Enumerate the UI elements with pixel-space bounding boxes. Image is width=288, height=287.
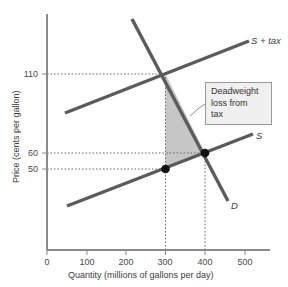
supply-demand-plot [0,0,288,287]
deadweight-loss-callout: Deadweight loss from tax [205,82,272,125]
curve-label-supply: S [256,131,262,141]
x-tick-label-500: 500 [230,257,260,267]
y-axis-title: Price (cents per gallon) [11,90,21,183]
marker-seller-receives [161,165,170,174]
callout-leader-line [190,104,205,116]
x-tick-label-0: 0 [32,257,62,267]
x-tick-label-400: 400 [190,257,220,267]
callout-line-3: tax [211,109,267,121]
y-tick-label-110: 110 [12,69,38,79]
x-tick-label-100: 100 [72,257,102,267]
curve-label-supply-plus-tax: S + tax [251,36,281,46]
x-axis-title: Quantity (millions of gallons per day) [68,270,214,280]
x-tick-label-300: 300 [150,257,180,267]
curve-label-demand: D [231,201,238,211]
x-tick-label-200: 200 [111,257,141,267]
callout-line-1: Deadweight [211,86,267,98]
callout-line-2: loss from [211,98,267,110]
marker-no-tax-equilibrium [201,149,210,158]
chart-canvas: 110 60 50 0 100 200 300 400 500 Quantity… [0,0,288,287]
